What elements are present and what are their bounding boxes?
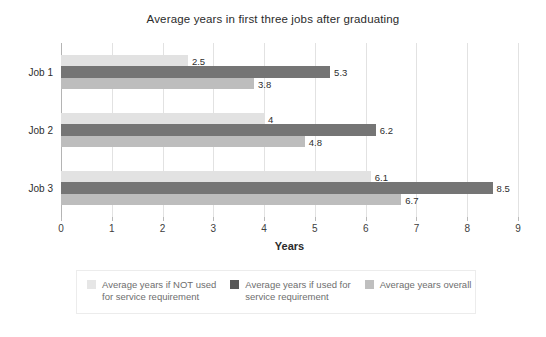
bar-value-label: 5.3	[330, 67, 347, 78]
bar-value-label: 2.5	[188, 55, 205, 66]
bar-value-label: 4	[264, 113, 273, 124]
bar	[61, 182, 493, 194]
bar	[61, 78, 254, 90]
bar	[61, 66, 330, 78]
x-tick-label: 9	[515, 223, 521, 234]
y-tick-label: Job 1	[29, 67, 53, 78]
legend-swatch-icon	[87, 280, 96, 289]
x-axis-tick	[163, 217, 164, 221]
legend-swatch-icon	[230, 280, 239, 289]
x-tick-label: 6	[363, 223, 369, 234]
legend-item[interactable]: Average years if used forservice require…	[230, 279, 350, 303]
plot-area: 0123456789Job 12.55.33.8Job 246.24.8Job …	[61, 43, 518, 217]
y-tick-label: Job 3	[29, 183, 53, 194]
x-axis-tick	[264, 217, 265, 221]
legend-label: Average years if NOT usedfor service req…	[102, 279, 216, 303]
legend-swatch-icon	[365, 280, 374, 289]
x-tick-label: 8	[464, 223, 470, 234]
chart-title: Average years in first three jobs after …	[0, 13, 546, 25]
x-tick-label: 3	[211, 223, 217, 234]
x-tick-label: 2	[160, 223, 166, 234]
x-tick-label: 5	[312, 223, 318, 234]
bar-value-label: 6.1	[371, 171, 388, 182]
bar-value-label: 6.7	[401, 194, 418, 205]
x-axis-tick	[213, 217, 214, 221]
x-tick-label: 7	[414, 223, 420, 234]
x-tick-label: 1	[109, 223, 115, 234]
legend-item[interactable]: Average years if NOT usedfor service req…	[87, 279, 216, 303]
bar	[61, 136, 305, 148]
x-tick-label: 0	[58, 223, 64, 234]
bar	[61, 55, 188, 67]
x-axis-title: Years	[61, 240, 518, 252]
bar	[61, 171, 371, 183]
x-axis-tick	[112, 217, 113, 221]
legend-item[interactable]: Average years overall	[365, 279, 472, 291]
x-tick-label: 4	[261, 223, 267, 234]
bar-value-label: 4.8	[305, 136, 322, 147]
bar	[61, 124, 376, 136]
x-axis-tick	[518, 217, 519, 221]
bar	[61, 194, 401, 206]
chart-container: Average years in first three jobs after …	[0, 0, 546, 337]
bar-value-label: 3.8	[254, 78, 271, 89]
x-axis-tick	[416, 217, 417, 221]
bar-value-label: 8.5	[493, 183, 510, 194]
legend-label: Average years overall	[380, 279, 472, 291]
x-axis-tick	[315, 217, 316, 221]
gridline	[518, 43, 519, 217]
x-axis-tick	[467, 217, 468, 221]
bar	[61, 113, 264, 125]
chart-legend: Average years if NOT usedfor service req…	[76, 270, 476, 314]
bar-value-label: 6.2	[376, 125, 393, 136]
x-axis-tick	[61, 217, 62, 221]
legend-label: Average years if used forservice require…	[245, 279, 350, 303]
x-axis-tick	[366, 217, 367, 221]
y-tick-label: Job 2	[29, 125, 53, 136]
